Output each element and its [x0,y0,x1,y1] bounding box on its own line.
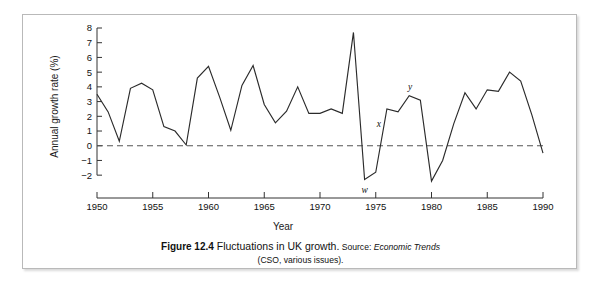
caption-source-detail: (CSO, various issues). [41,254,560,267]
growth-rate-series [97,32,543,181]
caption-title: Fluctuations in UK growth. [217,240,340,252]
y-tick-label: 1 [87,125,92,136]
point-annotation-w: w [361,185,368,195]
y-tick-label: 3 [87,96,92,107]
y-tick-label: 4 [87,81,92,92]
y-tick-label: −1 [81,155,92,166]
caption-source-name: Economic Trends [374,242,440,252]
x-tick-label: 1975 [365,201,386,212]
x-tick-label: 1950 [86,201,107,212]
y-tick-label: 0 [87,140,92,151]
y-tick-label: 6 [87,52,92,63]
figure-caption: Figure 12.4 Fluctuations in UK growth. S… [41,240,560,267]
x-tick-label: 1985 [477,201,498,212]
y-axis-title: Annual growth rate (%) [49,37,60,177]
point-annotation-y: y [407,82,413,92]
growth-rate-line-chart: −2−1012345678195019551960196519701975198… [23,15,578,227]
plot-area: −2−1012345678195019551960196519701975198… [23,15,578,227]
x-tick-label: 1965 [254,201,275,212]
caption-source-prefix: Source: [342,242,372,252]
x-tick-label: 1960 [198,201,219,212]
y-tick-label: 7 [87,37,92,48]
x-tick-label: 1990 [532,201,553,212]
x-tick-label: 1970 [309,201,330,212]
y-tick-label: 8 [87,22,92,33]
y-tick-label: 5 [87,67,92,78]
x-tick-label: 1955 [142,201,163,212]
figure-frame: −2−1012345678195019551960196519701975198… [22,14,577,269]
x-axis-title: Year [23,221,543,232]
x-tick-label: 1980 [421,201,442,212]
caption-figure-number: Figure 12.4 [161,241,214,252]
point-annotation-x: x [376,119,382,129]
y-tick-label: 2 [87,111,92,122]
y-tick-label: −2 [81,170,92,181]
